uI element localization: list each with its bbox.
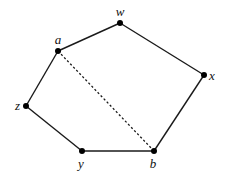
- nodes-group: [23, 20, 207, 154]
- edge-a-b-dashed: [58, 51, 154, 151]
- node-b: [151, 148, 157, 154]
- edges-group: [26, 23, 204, 151]
- edge-x-b: [154, 75, 204, 151]
- node-label-w: w: [116, 4, 125, 19]
- node-label-z: z: [14, 98, 20, 113]
- node-label-a: a: [55, 32, 62, 47]
- node-label-x: x: [208, 68, 215, 83]
- node-label-y: y: [76, 156, 84, 171]
- labels-group: waxzyb: [14, 4, 215, 171]
- node-y: [79, 148, 85, 154]
- graph-diagram: waxzyb: [0, 0, 226, 178]
- edge-a-w: [58, 23, 120, 51]
- node-label-b: b: [150, 156, 157, 171]
- node-z: [23, 103, 29, 109]
- edge-z-a: [26, 51, 58, 106]
- edge-w-x: [120, 23, 204, 75]
- node-a: [55, 48, 61, 54]
- node-w: [117, 20, 123, 26]
- edge-y-z: [26, 106, 82, 151]
- node-x: [201, 72, 207, 78]
